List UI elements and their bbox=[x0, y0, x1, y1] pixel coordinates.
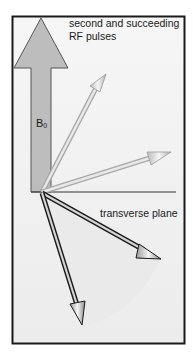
b0-label: B0 bbox=[36, 117, 47, 132]
title-line-1: second and succeeding bbox=[69, 17, 179, 30]
rf-pulse-diagram: second and succeeding RF pulses B0 trans… bbox=[0, 0, 193, 357]
transverse-plane-label: transverse plane bbox=[100, 207, 178, 220]
b0-subscript: 0 bbox=[43, 122, 47, 129]
diagram-canvas bbox=[0, 0, 193, 357]
title-line-2: RF pulses bbox=[69, 30, 179, 43]
rf-pulses-title: second and succeeding RF pulses bbox=[69, 17, 179, 43]
